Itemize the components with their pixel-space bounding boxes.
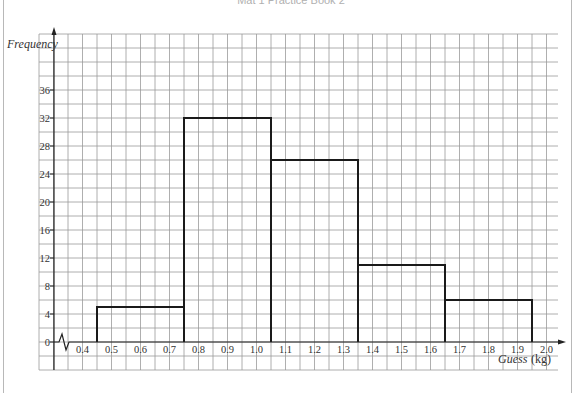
x-tick-label: 1.2 bbox=[308, 344, 321, 355]
x-tick-label: 0.7 bbox=[163, 344, 176, 355]
x-tick-label: 1.5 bbox=[395, 344, 408, 355]
x-tick-label: 0.9 bbox=[221, 344, 234, 355]
x-tick-label: 1.4 bbox=[366, 344, 380, 355]
x-tick-label: 1.7 bbox=[453, 344, 466, 355]
grid bbox=[39, 34, 558, 370]
x-tick-label: 1.1 bbox=[279, 344, 292, 355]
x-tick-label: 0.8 bbox=[192, 344, 205, 355]
x-axis-title: Guess (kg) bbox=[498, 352, 551, 366]
x-tick-label: 0.4 bbox=[76, 344, 90, 355]
x-axis-title-text: Guess bbox=[498, 352, 528, 366]
x-tick-label: 1.8 bbox=[482, 344, 495, 355]
y-tick-label: 24 bbox=[40, 169, 51, 180]
y-tick-label: 36 bbox=[40, 85, 51, 96]
histogram-chart: 04812162024283236 0.40.50.60.70.80.91.01… bbox=[0, 0, 582, 393]
y-tick-label: 20 bbox=[40, 197, 51, 208]
x-tick-labels: 0.40.50.60.70.80.91.01.11.21.31.41.51.61… bbox=[76, 344, 553, 355]
x-tick-label: 1.6 bbox=[424, 344, 437, 355]
x-axis-arrow-icon bbox=[558, 340, 566, 345]
x-tick-label: 0.6 bbox=[134, 344, 147, 355]
y-tick-label: 16 bbox=[40, 225, 51, 236]
x-tick-label: 1.3 bbox=[337, 344, 350, 355]
x-tick-label: 0.5 bbox=[105, 344, 118, 355]
y-tick-label: 12 bbox=[40, 253, 51, 264]
y-tick-label: 4 bbox=[45, 309, 51, 320]
y-axis-title: Frequency bbox=[6, 37, 59, 51]
y-tick-label: 28 bbox=[40, 141, 51, 152]
y-tick-label: 0 bbox=[45, 337, 50, 348]
y-tick-label: 32 bbox=[40, 113, 51, 124]
y-axis-arrow-icon bbox=[52, 27, 57, 35]
y-tick-label: 8 bbox=[45, 281, 50, 292]
x-axis-unit: (kg) bbox=[531, 352, 551, 366]
x-tick-label: 1.0 bbox=[250, 344, 263, 355]
